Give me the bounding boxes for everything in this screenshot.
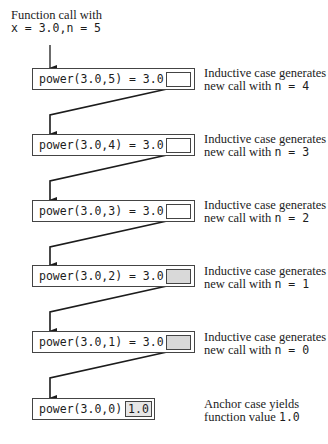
- call-expression: power(3.0,2) = 3.0 *: [39, 269, 177, 283]
- call-expression: power(3.0,3) = 3.0 *: [39, 204, 177, 218]
- note-value: 1.0: [279, 410, 300, 424]
- recursive-call-arrow-5: [50, 352, 167, 398]
- call-box-n3: power(3.0,3) = 3.0 *: [32, 200, 195, 222]
- call-note-n5: Inductive case generates new call with n…: [204, 67, 326, 93]
- recursive-call-arrow-1: [50, 89, 167, 134]
- anchor-call-box: power(3.0,0) = 1.0: [32, 398, 155, 420]
- call-expression: power(3.0,1) = 3.0 *: [39, 335, 177, 349]
- note-line2: new call with n = 0: [204, 344, 326, 357]
- recursive-call-arrow-3: [50, 221, 167, 265]
- note-n-value: n = 3: [274, 145, 309, 159]
- recursive-call-arrow-4: [50, 286, 167, 331]
- note-line2: new call with n = 4: [204, 80, 326, 93]
- note-n-value: n = 0: [274, 343, 309, 357]
- call-box-n4: power(3.0,4) = 3.0 *: [32, 134, 195, 156]
- anchor-value: 1.0: [125, 401, 152, 417]
- result-slot: [166, 269, 191, 284]
- note-n-value: n = 1: [274, 277, 309, 291]
- note-line2: function value 1.0: [204, 411, 300, 424]
- note-line2: new call with n = 2: [204, 212, 326, 225]
- call-box-n2: power(3.0,2) = 3.0 *: [32, 265, 195, 287]
- call-note-n3: Inductive case generates new call with n…: [204, 199, 326, 225]
- result-slot: [166, 204, 191, 219]
- note-line2: new call with n = 3: [204, 146, 326, 159]
- call-box-n5: power(3.0,5) = 3.0 *: [32, 68, 195, 90]
- result-slot: [166, 335, 191, 350]
- result-slot: [166, 138, 191, 153]
- anchor-note: Anchor case yields function value 1.0: [204, 398, 300, 424]
- recursive-call-arrow-2: [50, 155, 167, 200]
- result-slot: [166, 72, 191, 87]
- call-expression: power(3.0,5) = 3.0 *: [39, 72, 177, 86]
- call-note-n2: Inductive case generates new call with n…: [204, 265, 326, 291]
- anchor-expression: power(3.0,0) =: [39, 402, 136, 416]
- note-line2: new call with n = 1: [204, 278, 326, 291]
- call-expression: power(3.0,4) = 3.0 *: [39, 138, 177, 152]
- call-box-n1: power(3.0,1) = 3.0 *: [32, 331, 195, 353]
- call-note-n4: Inductive case generates new call with n…: [204, 133, 326, 159]
- call-note-n1: Inductive case generates new call with n…: [204, 331, 326, 357]
- note-n-value: n = 4: [274, 79, 309, 93]
- note-n-value: n = 2: [274, 211, 309, 225]
